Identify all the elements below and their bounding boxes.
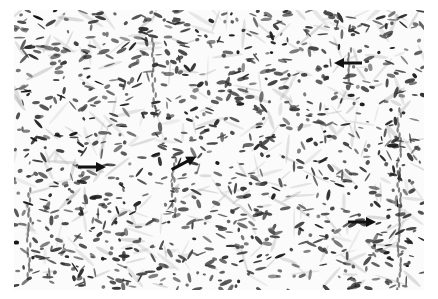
tissue-texture <box>14 10 424 290</box>
histology-micrograph <box>14 10 424 290</box>
